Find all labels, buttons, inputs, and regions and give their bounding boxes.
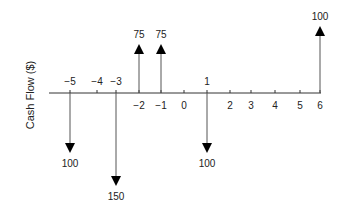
cash-flow-arrow: 100 bbox=[62, 93, 79, 169]
cash-flow-diagram: Cash Flow ($) −5−4−3−2−10123456 10015075… bbox=[0, 0, 347, 211]
cash-flow-arrow: 100 bbox=[312, 11, 329, 93]
tick-label: 3 bbox=[248, 100, 254, 111]
tick-label: 0 bbox=[181, 100, 187, 111]
flow-amount: 150 bbox=[108, 191, 125, 202]
tick-label: 2 bbox=[227, 100, 233, 111]
flow-amount: 75 bbox=[133, 29, 145, 40]
tick-label: −5 bbox=[64, 76, 76, 87]
arrow-down-icon bbox=[111, 176, 121, 186]
tick-label: −1 bbox=[155, 100, 167, 111]
cash-flow-arrow: 75 bbox=[133, 29, 145, 93]
cash-flow-arrow: 75 bbox=[155, 29, 167, 93]
tick-label: −3 bbox=[110, 76, 122, 87]
arrow-down-icon bbox=[65, 143, 75, 153]
tick-label: 6 bbox=[317, 100, 323, 111]
cash-flow-arrow: 150 bbox=[108, 93, 125, 202]
tick-label: −2 bbox=[133, 100, 145, 111]
tick-label: 1 bbox=[204, 76, 210, 87]
cash-flow-arrow: 100 bbox=[199, 93, 216, 169]
arrow-up-icon bbox=[134, 44, 144, 54]
tick-label: 4 bbox=[272, 100, 278, 111]
flow-amount: 100 bbox=[312, 11, 329, 22]
tick-label: −4 bbox=[91, 76, 103, 87]
flow-amount: 100 bbox=[199, 158, 216, 169]
tick-label: 5 bbox=[297, 100, 303, 111]
arrow-up-icon bbox=[315, 26, 325, 36]
arrow-up-icon bbox=[156, 44, 166, 54]
flow-amount: 75 bbox=[155, 29, 167, 40]
flow-amount: 100 bbox=[62, 158, 79, 169]
y-axis-label: Cash Flow ($) bbox=[24, 61, 36, 129]
arrow-down-icon bbox=[202, 143, 212, 153]
cash-flow-arrows: 1001507575100100 bbox=[62, 11, 329, 202]
